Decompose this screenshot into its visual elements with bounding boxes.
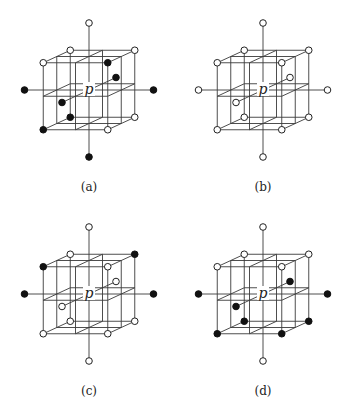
open-point-icon xyxy=(214,59,221,66)
open-point-icon xyxy=(278,126,285,133)
filled-point-icon xyxy=(21,87,28,94)
lattice-neighborhood-figure: p (a) p (b) p (c) p (d) xyxy=(0,0,349,414)
filled-point-icon xyxy=(131,251,138,258)
open-point-icon xyxy=(305,114,312,121)
caption-c: (c) xyxy=(59,384,119,398)
open-point-icon xyxy=(67,47,74,54)
filled-point-icon xyxy=(287,278,294,285)
filled-point-icon xyxy=(324,291,331,298)
filled-point-icon xyxy=(40,126,47,133)
lattice-diagram-c: p xyxy=(0,204,175,409)
filled-point-icon xyxy=(278,330,285,337)
open-point-icon xyxy=(260,154,267,161)
open-point-icon xyxy=(59,303,66,310)
open-point-icon xyxy=(131,318,138,325)
open-point-icon xyxy=(40,330,47,337)
open-point-icon xyxy=(214,126,221,133)
open-point-icon xyxy=(104,126,111,133)
open-point-icon xyxy=(233,99,240,106)
open-point-icon xyxy=(113,278,120,285)
open-point-icon xyxy=(86,224,93,231)
open-point-icon xyxy=(260,224,267,231)
open-point-icon xyxy=(40,59,47,66)
panel-d: p (d) xyxy=(174,204,349,409)
filled-point-icon xyxy=(214,330,221,337)
center-point-label: p xyxy=(85,285,94,301)
open-point-icon xyxy=(260,358,267,365)
open-point-icon xyxy=(67,251,74,258)
lattice-diagram-a: p xyxy=(0,0,175,205)
open-point-icon xyxy=(241,47,248,54)
center-point-label: p xyxy=(259,81,268,97)
open-point-icon xyxy=(104,263,111,270)
filled-point-icon xyxy=(305,318,312,325)
open-point-icon xyxy=(324,87,331,94)
open-point-icon xyxy=(86,358,93,365)
filled-point-icon xyxy=(150,291,157,298)
filled-point-icon xyxy=(21,291,28,298)
open-point-icon xyxy=(305,47,312,54)
open-point-icon xyxy=(241,251,248,258)
open-point-icon xyxy=(214,263,221,270)
center-point-label: p xyxy=(85,81,94,97)
filled-point-icon xyxy=(67,114,74,121)
filled-point-icon xyxy=(59,99,66,106)
center-point-label: p xyxy=(259,285,268,301)
lattice-diagram-d: p xyxy=(174,204,349,409)
open-point-icon xyxy=(131,114,138,121)
open-point-icon xyxy=(67,318,74,325)
open-point-icon xyxy=(104,330,111,337)
caption-a: (a) xyxy=(59,180,119,194)
caption-d: (d) xyxy=(233,384,293,398)
open-point-icon xyxy=(86,20,93,27)
lattice-diagram-b: p xyxy=(174,0,349,205)
open-point-icon xyxy=(278,59,285,66)
filled-point-icon xyxy=(233,303,240,310)
open-point-icon xyxy=(241,114,248,121)
open-point-icon xyxy=(305,251,312,258)
filled-point-icon xyxy=(113,74,120,81)
open-point-icon xyxy=(195,87,202,94)
panel-b: p (b) xyxy=(174,0,349,205)
panel-a: p (a) xyxy=(0,0,175,205)
open-point-icon xyxy=(131,47,138,54)
filled-point-icon xyxy=(40,263,47,270)
open-point-icon xyxy=(260,20,267,27)
filled-point-icon xyxy=(150,87,157,94)
open-point-icon xyxy=(287,74,294,81)
filled-point-icon xyxy=(86,154,93,161)
filled-point-icon xyxy=(241,318,248,325)
filled-point-icon xyxy=(104,59,111,66)
open-point-icon xyxy=(278,263,285,270)
panel-c: p (c) xyxy=(0,204,175,409)
filled-point-icon xyxy=(195,291,202,298)
caption-b: (b) xyxy=(233,180,293,194)
